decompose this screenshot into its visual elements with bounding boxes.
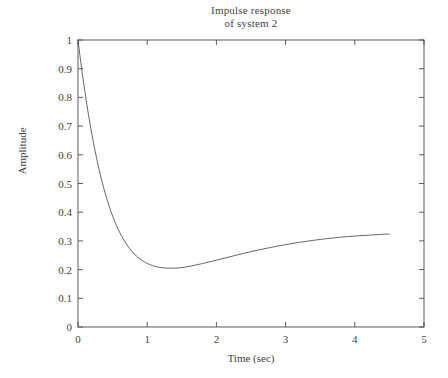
x-axis-title: Time (sec) bbox=[78, 352, 424, 364]
y-tick-label: 0 bbox=[30, 321, 72, 333]
y-tick-label: 0.9 bbox=[30, 63, 72, 75]
y-tick-label: 0.3 bbox=[30, 235, 72, 247]
y-tick-label: 1 bbox=[30, 34, 72, 46]
x-tick-label: 2 bbox=[214, 333, 220, 345]
y-tick-label: 0.6 bbox=[30, 149, 72, 161]
axes-box bbox=[78, 40, 424, 327]
x-tick-label: 0 bbox=[75, 333, 81, 345]
x-tick-label: 1 bbox=[144, 333, 150, 345]
y-tick-label: 0.4 bbox=[30, 206, 72, 218]
y-tick-label: 0.2 bbox=[30, 264, 72, 276]
y-tick-label: 0.8 bbox=[30, 91, 72, 103]
x-tick-label: 5 bbox=[421, 333, 427, 345]
axis-ticks bbox=[78, 40, 424, 327]
y-tick-label: 0.7 bbox=[30, 120, 72, 132]
axes-frame bbox=[78, 40, 424, 327]
y-tick-label: 0.5 bbox=[30, 178, 72, 190]
figure-canvas: Impulse response of system 2 00.10.20.30… bbox=[0, 0, 448, 378]
y-tick-label: 0.1 bbox=[30, 292, 72, 304]
data-series-line bbox=[78, 40, 389, 268]
x-tick-label: 3 bbox=[283, 333, 289, 345]
x-tick-label: 4 bbox=[352, 333, 358, 345]
y-axis-title: Amplitude bbox=[16, 111, 28, 191]
